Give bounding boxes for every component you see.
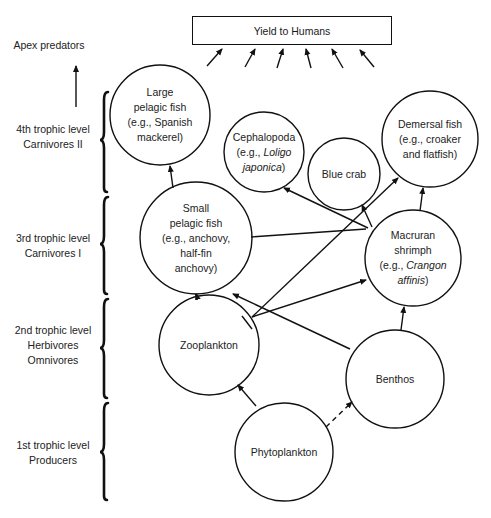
macruran-shrimp-label: Macruran shrimph (e.g., Crangon affinis) [365,210,461,306]
level-1-label: 1st trophic level Producers [8,438,98,468]
apex-predators-label: Apex predators [4,38,94,53]
level-2-label: 2nd trophic level Herbivores Omnivores [8,323,98,368]
zooplankton-label: Zooplankton [159,295,259,395]
link-benthos-to-macruran [401,307,404,330]
cephalopoda-label: Cephalopoda (e.g., Loligo japonica) [224,112,304,192]
benthos-label: Benthos [346,330,444,428]
yield-arrow [360,50,374,67]
small-pelagic-fish-label: Small pelagic fish (e.g., anchovy, half-… [140,182,252,294]
brace-3rd [100,197,108,294]
brace-1st [100,403,108,500]
yield-arrow [306,49,311,68]
yield-to-humans-box: Yield to Humans [192,16,392,45]
yield-arrow [277,49,283,68]
brace-4th [100,92,108,192]
level-3-label: 3rd trophic level Carnivores I [8,231,98,261]
link-macruran-to-demersal [420,188,423,211]
yield-arrow [332,49,343,68]
demersal-fish-label: Demersal fish (e.g., croaker and flatfis… [382,91,478,187]
blue-crab-label: Blue crab [308,138,380,210]
link-zoo-to-macruran [252,280,366,317]
yield-arrow [245,49,255,67]
link-small-macruran [251,229,366,237]
brace-2nd [100,299,108,398]
level-4-label: 4th trophic level Carnivores II [8,122,98,152]
yield-arrow [207,49,222,66]
phytoplankton-label: Phytoplankton [235,403,333,501]
large-pelagic-fish-label: Large pelagic fish (e.g., Spanish macker… [110,65,210,165]
